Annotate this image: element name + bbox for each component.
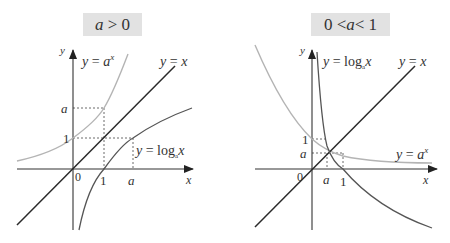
left-origin-label: 0 xyxy=(75,170,81,184)
graphs-canvas: y x 0 1 a 1 a y = ax y = x y = logax y x… xyxy=(0,0,450,243)
left-x-axis-label: x xyxy=(185,173,192,187)
right-y-tick-1: 1 xyxy=(302,132,309,147)
left-exponential-label: y = ax xyxy=(80,52,114,69)
right-origin-label: 0 xyxy=(297,170,303,184)
right-y-tick-a: a xyxy=(300,146,307,161)
right-x-tick-a: a xyxy=(323,172,330,187)
left-identity-label: y = x xyxy=(158,54,188,69)
left-x-tick-a: a xyxy=(128,173,135,188)
left-x-tick-1: 1 xyxy=(100,173,107,188)
left-y-tick-a: a xyxy=(61,101,68,116)
right-x-axis-label: x xyxy=(422,173,429,187)
right-y-axis-label: y xyxy=(299,44,305,56)
left-y-tick-1: 1 xyxy=(63,131,70,146)
right-x-tick-1: 1 xyxy=(340,174,347,189)
right-log-label: y = logax xyxy=(321,54,372,71)
right-identity-label: y = x xyxy=(397,54,427,69)
right-graph: y x 0 a 1 1 a y = logax y = x y = ax xyxy=(255,44,437,230)
right-exponential-label: y = ax xyxy=(394,145,428,162)
left-log-label: y = logax xyxy=(134,143,185,160)
left-y-axis-label: y xyxy=(59,44,65,56)
left-graph: y x 0 1 a 1 a y = ax y = x y = logax xyxy=(17,44,193,230)
right-identity-line xyxy=(255,66,415,227)
right-log-curve xyxy=(317,52,432,228)
